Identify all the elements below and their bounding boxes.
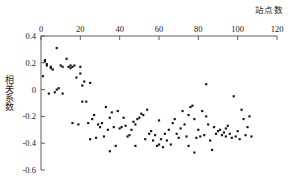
scatter-point [81, 84, 83, 86]
scatter-point [56, 89, 58, 91]
scatter-point [126, 135, 128, 137]
scatter-point [209, 139, 211, 141]
scatter-point [95, 137, 97, 139]
scatter-point [170, 143, 172, 145]
scatter-point [237, 130, 239, 132]
scatter-point [227, 125, 229, 127]
scatter-point [89, 82, 91, 84]
scatter-point [138, 117, 140, 119]
scatter-point [213, 126, 215, 128]
scatter-point [152, 139, 154, 141]
scatter-series-correlation [42, 47, 253, 154]
scatter-point [205, 83, 207, 85]
scatter-point [154, 134, 156, 136]
scatter-point [205, 115, 207, 117]
scatter-point [193, 151, 195, 153]
scatter-point [89, 138, 91, 140]
scatter-point [67, 66, 69, 68]
scatter-point [140, 113, 142, 115]
scatter-point [79, 72, 81, 74]
scatter-point [250, 135, 252, 137]
scatter-point [119, 127, 121, 129]
scatter-point [71, 122, 73, 124]
scatter-point [183, 123, 185, 125]
scatter-point [158, 143, 160, 145]
scatter-point [160, 138, 162, 140]
scatter-point [83, 80, 85, 82]
scatter-point [235, 135, 237, 137]
scatter-point [162, 146, 164, 148]
scatter-point [187, 145, 189, 147]
scatter-point [50, 67, 52, 69]
scatter-point [150, 130, 152, 132]
scatter-point [62, 93, 64, 95]
scatter-point [99, 126, 101, 128]
scatter-point [193, 118, 195, 120]
scatter-point [113, 126, 115, 128]
scatter-point [207, 123, 209, 125]
scatter-point [185, 135, 187, 137]
scatter-point [176, 133, 178, 135]
scatter-point [180, 127, 182, 129]
scatter-point [73, 64, 75, 66]
scatter-point [117, 110, 119, 112]
scatter-point [215, 133, 217, 135]
scatter-point [158, 119, 160, 121]
scatter-point [248, 115, 250, 117]
scatter-point [244, 134, 246, 136]
scatter-point [197, 129, 199, 131]
scatter-point [242, 118, 244, 120]
scatter-point [201, 110, 203, 112]
scatter-point [42, 75, 44, 77]
scatter-point [233, 95, 235, 97]
scatter-point [144, 138, 146, 140]
scatter-point [65, 58, 67, 60]
scatter-point [48, 93, 50, 95]
scatter-point [191, 105, 193, 107]
scatter-point [246, 126, 248, 128]
scatter-point [211, 149, 213, 151]
scatter-point [182, 110, 184, 112]
scatter-point [44, 60, 46, 62]
scatter-point [105, 106, 107, 108]
scatter-point [164, 133, 166, 135]
scatter-point [178, 137, 180, 139]
scatter-point [79, 66, 81, 68]
scatter-chart-figure: 站点数 相关系数 020406080100120 0.40.20-0.2-0.4… [0, 0, 303, 189]
scatter-point [130, 129, 132, 131]
scatter-point [60, 64, 62, 66]
scatter-point [81, 101, 83, 103]
scatter-point [231, 137, 233, 139]
scatter-point [187, 114, 189, 116]
scatter-point [142, 114, 144, 116]
scatter-point [56, 47, 58, 49]
scatter-point [217, 130, 219, 132]
scatter-point [109, 117, 111, 119]
scatter-point [54, 91, 56, 93]
scatter-point [46, 64, 48, 66]
scatter-point [77, 123, 79, 125]
scatter-point [136, 118, 138, 120]
scatter-point [239, 138, 241, 140]
scatter-point [174, 118, 176, 120]
scatter-point [225, 135, 227, 137]
scatter-point [172, 122, 174, 124]
scatter-point [148, 133, 150, 135]
scatter-point [91, 118, 93, 120]
scatter-point [85, 101, 87, 103]
scatter-point [52, 68, 54, 70]
scatter-point [128, 134, 130, 136]
scatter-point [69, 67, 71, 69]
scatter-point [109, 150, 111, 152]
scatter-point [123, 117, 125, 119]
scatter-point [101, 122, 103, 124]
scatter-point [189, 106, 191, 108]
scatter-point [219, 129, 221, 131]
scatter-point [221, 134, 223, 136]
scatter-point [124, 125, 126, 127]
scatter-point [62, 66, 64, 68]
scatter-point [93, 114, 95, 116]
scatter-point [241, 109, 243, 111]
scatter-point [107, 129, 109, 131]
scatter-point [103, 135, 105, 137]
